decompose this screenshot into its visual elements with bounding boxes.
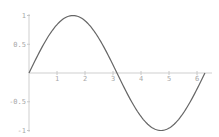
x-tick-label: 1 [55, 75, 59, 83]
x-tick-label: 4 [139, 75, 143, 83]
y-tick-label: -1 [18, 127, 26, 135]
y-tick-label: 0.5 [13, 41, 26, 49]
y-tick-label: -0.5 [9, 98, 26, 106]
sine-chart: 123456 10.5-0.5-1 [0, 0, 219, 137]
y-ticks: 10.5-0.5-1 [9, 12, 30, 135]
x-tick-label: 3 [111, 75, 115, 83]
x-tick-label: 6 [195, 75, 199, 83]
x-tick-label: 2 [83, 75, 87, 83]
x-tick-label: 5 [167, 75, 171, 83]
y-tick-label: 1 [22, 12, 26, 20]
